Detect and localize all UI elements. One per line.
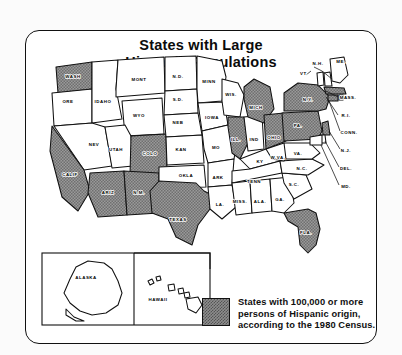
state-label-md: MD. bbox=[341, 184, 351, 189]
state-ark[interactable] bbox=[208, 159, 234, 187]
state-label-fla: FLA. bbox=[300, 230, 312, 235]
state-label-ill: ILL. bbox=[231, 137, 241, 142]
state-texas[interactable] bbox=[150, 181, 212, 245]
state-label-pa: PA. bbox=[294, 123, 303, 128]
state-label-okla: OKLA bbox=[179, 173, 194, 178]
state-label-calif: CALIF bbox=[62, 172, 78, 177]
state-label-vt: VT. bbox=[300, 71, 308, 76]
legend-line-2: persons of Hispanic origin, bbox=[238, 309, 375, 321]
state-label-sc: S.C. bbox=[289, 182, 300, 187]
state-label-conn: CONN. bbox=[341, 130, 358, 135]
state-label-minn: MINN bbox=[202, 79, 215, 84]
state-ala[interactable] bbox=[250, 179, 272, 213]
legend-text: States with 100,000 or more persons of H… bbox=[238, 297, 375, 332]
state-label-wyo: WYO bbox=[133, 113, 145, 118]
state-label-nc: N.C. bbox=[297, 166, 308, 171]
state-label-mont: MONT bbox=[131, 77, 146, 82]
inset-alaska-hawaii[interactable] bbox=[42, 253, 210, 325]
state-label-wash: WASH bbox=[65, 74, 80, 79]
state-mass[interactable] bbox=[324, 87, 346, 94]
state-label-hawaii: HAWAII bbox=[149, 297, 168, 302]
state-miss[interactable] bbox=[232, 181, 252, 215]
state-sd[interactable] bbox=[164, 89, 198, 115]
state-label-va: VA. bbox=[294, 151, 303, 156]
legend-line-1: States with 100,000 or more bbox=[238, 297, 375, 309]
state-label-ohio: OHIO bbox=[267, 135, 280, 140]
state-label-tenn: TENN bbox=[247, 179, 261, 184]
state-label-neb: NEB bbox=[173, 120, 184, 125]
state-label-alaska: ALASKA bbox=[75, 275, 97, 280]
state-nh[interactable] bbox=[324, 72, 332, 86]
state-label-me: ME. bbox=[336, 59, 345, 64]
state-md[interactable] bbox=[310, 135, 322, 145]
state-nj[interactable] bbox=[322, 121, 330, 135]
state-label-colo: COLO bbox=[143, 151, 158, 156]
state-neb[interactable] bbox=[164, 113, 202, 137]
state-label-mo: MO bbox=[212, 145, 220, 150]
legend: States with 100,000 or more persons of H… bbox=[202, 297, 375, 332]
state-label-miss: MISS. bbox=[233, 199, 248, 204]
state-label-ore: ORE bbox=[62, 99, 73, 104]
legend-line-3: according to the 1980 Census. bbox=[238, 320, 375, 332]
state-label-ky: KY bbox=[256, 159, 263, 164]
state-label-mass: MASS. bbox=[340, 95, 357, 100]
state-vt[interactable] bbox=[317, 72, 324, 86]
state-label-ga: GA. bbox=[275, 197, 284, 202]
state-wis[interactable] bbox=[222, 79, 244, 117]
map-card: States with Large Hispanic Populations bbox=[25, 30, 377, 344]
state-label-ark: ARK bbox=[212, 175, 223, 180]
state-label-mich: MICH bbox=[249, 105, 262, 110]
state-label-ind: IND bbox=[249, 137, 258, 142]
state-label-nm: N.M. bbox=[133, 190, 144, 195]
state-label-kan: KAN bbox=[175, 147, 186, 152]
state-label-del: DEL. bbox=[340, 166, 352, 171]
state-label-ny: N.Y. bbox=[303, 97, 313, 102]
state-label-ri: R.I. bbox=[341, 113, 350, 118]
state-ore[interactable] bbox=[52, 89, 92, 126]
state-label-ala: ALA. bbox=[254, 199, 266, 204]
state-label-nd: N.D. bbox=[173, 74, 184, 79]
state-label-utah: UTAH bbox=[109, 147, 123, 152]
states-layer bbox=[50, 56, 348, 253]
state-label-wis: WIS. bbox=[225, 92, 237, 97]
gray-shaded-swatch bbox=[202, 298, 230, 326]
state-label-nj: N.J. bbox=[341, 148, 351, 153]
state-label-sd: S.D. bbox=[173, 97, 184, 102]
state-label-texas: TEXAS bbox=[169, 217, 186, 222]
state-label-iowa: IOWA bbox=[205, 115, 219, 120]
state-label-ariz: ARIZ bbox=[102, 190, 114, 195]
state-label-nev: NEV bbox=[89, 142, 100, 147]
state-label-la: LA. bbox=[216, 202, 225, 207]
state-label-wva: W.VA. bbox=[271, 155, 286, 160]
state-label-nh: N.H. bbox=[313, 61, 324, 66]
state-label-idaho: IDAHO bbox=[95, 99, 112, 104]
